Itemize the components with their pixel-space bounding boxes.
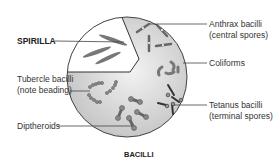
label-tubercle-1: Tubercle bacilli <box>17 74 73 84</box>
label-tetanus-2: (terminal spores) <box>209 111 273 121</box>
label-anthrax-2: (central spores) <box>209 30 268 40</box>
label-bacilli: BACILLI <box>124 150 154 160</box>
label-coliforms: Coliforms <box>209 58 245 68</box>
label-tetanus-1: Tetanus bacilli <box>209 100 262 110</box>
label-tubercle-2: (note beading) <box>17 85 72 95</box>
label-anthrax-1: Anthrax bacilli <box>209 19 262 29</box>
label-spirilla: SPIRILLA <box>17 36 56 46</box>
label-diptheroids: Diptheroids <box>17 121 60 131</box>
